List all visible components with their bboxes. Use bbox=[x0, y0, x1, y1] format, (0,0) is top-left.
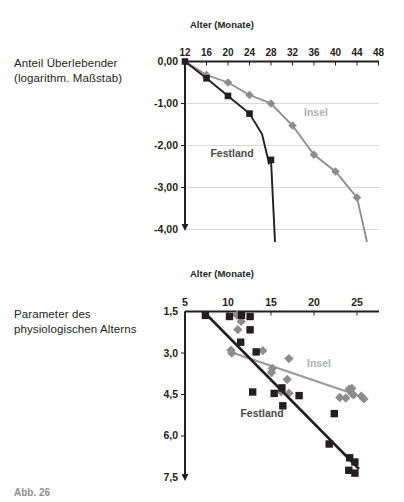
aging-ytick-5: 7,5 bbox=[163, 471, 178, 483]
aging-chart-panel: Parameter des physiologischen Alterns Al… bbox=[0, 250, 404, 502]
survival-axis-title: Alter (Monate) bbox=[190, 19, 254, 30]
survival-xtick-12: 12 bbox=[179, 47, 191, 58]
survival-xtick-16: 16 bbox=[201, 47, 213, 58]
aging-xtick-5: 5 bbox=[182, 296, 188, 308]
survival-ytick-1: -1,00 bbox=[154, 97, 178, 109]
survival-xtick-44: 44 bbox=[351, 47, 363, 58]
aging-xtick-25: 25 bbox=[351, 296, 363, 308]
aging-ytick-3: 4,5 bbox=[163, 388, 178, 400]
figure-container: Anteil Überlebender (logarithm. Maßstab)… bbox=[0, 0, 404, 502]
survival-xtick-40: 40 bbox=[330, 47, 342, 58]
figure-caption: Abb. 26 bbox=[14, 487, 50, 498]
survival-ytick-2: -2,00 bbox=[154, 139, 178, 151]
survival-ytick-0: 0,00 bbox=[158, 55, 179, 67]
survival-plot: 12 16 20 24 28 32 36 40 44 48 bbox=[0, 30, 404, 245]
survival-y-tick-labels: 0,00 -1,00 -2,00 -3,00 -4,00 bbox=[154, 55, 178, 235]
aging-label-insel: Insel bbox=[307, 357, 331, 369]
survival-xtick-24: 24 bbox=[244, 47, 256, 58]
survival-xtick-20: 20 bbox=[222, 47, 234, 58]
survival-xtick-28: 28 bbox=[265, 47, 277, 58]
survival-plot-svg: 12 16 20 24 28 32 36 40 44 48 bbox=[0, 30, 404, 245]
survival-x-tick-labels: 12 16 20 24 28 32 36 40 44 48 bbox=[179, 47, 384, 58]
survival-gridlines bbox=[185, 104, 379, 230]
survival-x-axis bbox=[185, 62, 379, 66]
survival-ytick-4: -4,00 bbox=[154, 223, 178, 235]
survival-chart-panel: Anteil Überlebender (logarithm. Maßstab)… bbox=[0, 0, 404, 250]
survival-xtick-48: 48 bbox=[373, 47, 385, 58]
aging-y-axis bbox=[181, 312, 188, 482]
survival-label-festland: Festland bbox=[210, 147, 253, 159]
survival-y-axis bbox=[181, 62, 188, 232]
aging-ytick-4: 6,0 bbox=[163, 429, 178, 441]
aging-ytick-2: 3,0 bbox=[163, 347, 178, 359]
aging-xtick-10: 10 bbox=[222, 296, 234, 308]
survival-ytick-3: -3,00 bbox=[154, 181, 178, 193]
survival-label-insel: Insel bbox=[304, 106, 328, 118]
survival-xtick-32: 32 bbox=[287, 47, 299, 58]
aging-plot-svg: 5 10 15 20 25 1,5 bbox=[0, 280, 404, 500]
aging-xtick-15: 15 bbox=[265, 296, 277, 308]
aging-y-tick-labels: 1,5 3,0 4,5 6,0 7,5 bbox=[163, 305, 178, 483]
aging-x-axis bbox=[185, 312, 379, 316]
survival-xtick-36: 36 bbox=[308, 47, 320, 58]
aging-ytick-1: 1,5 bbox=[163, 305, 178, 317]
aging-label-festland: Festland bbox=[240, 407, 283, 419]
aging-x-tick-labels: 5 10 15 20 25 bbox=[182, 296, 363, 308]
aging-axis-title: Alter (Monate) bbox=[190, 268, 254, 279]
aging-plot: 5 10 15 20 25 1,5 bbox=[0, 280, 404, 500]
aging-xtick-20: 20 bbox=[308, 296, 320, 308]
